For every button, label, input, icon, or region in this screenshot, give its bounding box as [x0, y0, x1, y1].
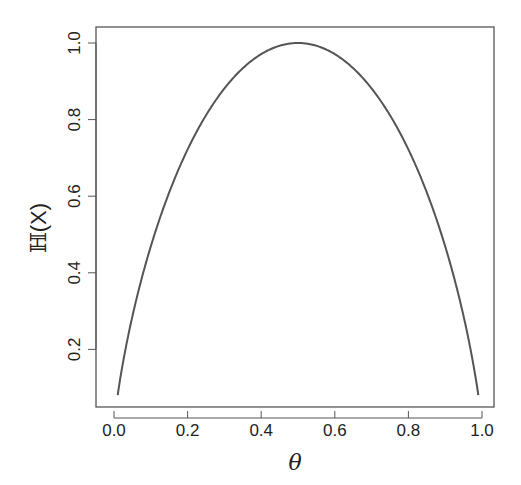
y-axis-title-symbol: ℍ — [26, 232, 51, 253]
y-axis: 0.20.40.60.81.0 — [65, 31, 96, 361]
x-axis: 0.00.20.40.60.81.0 — [102, 411, 494, 440]
entropy-chart: 0.20.40.60.81.0 0.00.20.40.60.81.0 θ ℍ(X… — [0, 0, 521, 485]
entropy-curve — [118, 43, 479, 395]
y-tick-label: 0.2 — [65, 338, 84, 362]
x-tick-label: 0.2 — [176, 421, 200, 440]
x-tick-label: 0.8 — [397, 421, 421, 440]
y-tick-label: 0.6 — [65, 184, 84, 208]
y-axis-title: ℍ(X) — [26, 203, 51, 253]
x-tick-label: 1.0 — [470, 421, 494, 440]
svg-text:ℍ(X): ℍ(X) — [26, 203, 51, 253]
x-tick-label: 0.6 — [323, 421, 347, 440]
y-tick-label: 0.8 — [65, 108, 84, 132]
y-tick-label: 1.0 — [65, 31, 84, 55]
y-tick-label: 0.4 — [65, 261, 84, 285]
x-tick-label: 0.4 — [249, 421, 273, 440]
y-axis-title-arg: (X) — [26, 203, 51, 232]
x-tick-label: 0.0 — [102, 421, 126, 440]
plot-frame — [96, 27, 494, 407]
x-axis-title: θ — [288, 450, 301, 475]
